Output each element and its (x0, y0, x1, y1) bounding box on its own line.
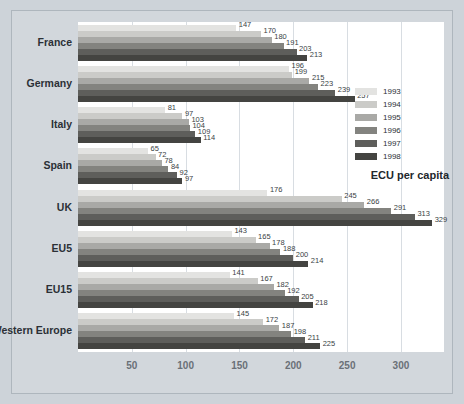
bar-value-label: 187 (282, 323, 295, 329)
x-axis-ticks: 50100150200250300 (78, 354, 444, 378)
bar (78, 96, 355, 102)
bar-group: 147170180191203213 (78, 22, 444, 63)
legend-label: 1997 (383, 139, 401, 148)
bar-value-label: 218 (315, 300, 328, 306)
bar-value-label: 81 (168, 105, 176, 111)
bar-value-label: 245 (344, 193, 357, 199)
bar-value-label: 198 (294, 329, 307, 335)
bar-value-label: 223 (321, 81, 334, 87)
category-label: Spain (43, 159, 72, 171)
x-tick-label: 200 (285, 360, 302, 371)
legend-item: 1998 (355, 151, 451, 162)
legend-label: 1994 (383, 100, 401, 109)
legend-swatch (355, 101, 377, 108)
category-label: Western Europe (0, 324, 72, 336)
bar-value-label: 211 (308, 335, 320, 341)
category-label: EU15 (46, 283, 72, 295)
bar-group: 143165178188200214 (78, 228, 444, 269)
legend-title: ECU per capita (355, 169, 451, 181)
bar (78, 302, 313, 308)
bar-value-label: 176 (270, 187, 283, 193)
legend-swatch (355, 114, 377, 121)
bar-value-label: 225 (323, 341, 336, 347)
bar-value-label: 291 (394, 205, 407, 211)
x-tick-label: 50 (126, 360, 137, 371)
category-label: Germany (26, 77, 72, 89)
bar (78, 55, 307, 61)
chart-legend: 199319941995199619971998 ECU per capita (355, 86, 451, 181)
bar-value-label: 167 (260, 276, 273, 282)
legend-item: 1994 (355, 99, 451, 110)
chart-figure: 1471701801912032131961992152232392578197… (0, 0, 464, 404)
bar-value-label: 180 (274, 34, 287, 40)
bar-group: 176245266291313329 (78, 187, 444, 228)
bar-value-label: 97 (185, 176, 193, 182)
x-tick-label: 150 (231, 360, 248, 371)
legend-label: 1998 (383, 152, 401, 161)
bar-value-label: 266 (367, 199, 380, 205)
bar-value-label: 143 (234, 228, 247, 234)
bar (78, 220, 432, 226)
bar-value-label: 199 (295, 69, 308, 75)
legend-item: 1997 (355, 138, 451, 149)
x-tick-label: 300 (393, 360, 410, 371)
legend-item: 1993 (355, 86, 451, 97)
bar-value-label: 313 (417, 211, 430, 217)
bar-value-label: 239 (338, 87, 351, 93)
bar-value-label: 114 (203, 135, 215, 141)
legend-swatch (355, 88, 377, 95)
bar-value-label: 147 (239, 22, 252, 28)
bar-value-label: 200 (296, 252, 309, 258)
legend-swatch (355, 127, 377, 134)
bar-value-label: 172 (266, 317, 279, 323)
bar (78, 261, 308, 267)
legend-item: 1995 (355, 112, 451, 123)
bar-value-label: 145 (237, 311, 250, 317)
category-label: France (38, 36, 72, 48)
bar (78, 178, 182, 184)
bar-value-label: 191 (286, 40, 299, 46)
x-tick-label: 100 (177, 360, 194, 371)
category-label: EU5 (52, 242, 72, 254)
bar-value-label: 192 (287, 288, 300, 294)
bar (78, 137, 201, 143)
legend-label: 1995 (383, 113, 401, 122)
bar-value-label: 141 (232, 270, 245, 276)
bar (78, 343, 320, 349)
legend-items: 199319941995199619971998 (355, 86, 451, 162)
bar-value-label: 213 (310, 52, 323, 58)
bar-value-label: 214 (311, 258, 324, 264)
legend-item: 1996 (355, 125, 451, 136)
bar-value-label: 165 (258, 234, 271, 240)
category-label: UK (57, 201, 72, 213)
plot-area: 1471701801912032131961992152232392578197… (78, 22, 444, 352)
category-label: Italy (51, 118, 72, 130)
bar-value-label: 205 (301, 294, 314, 300)
category-axis-labels: FranceGermanyItalySpainUKEU5EU15Western … (0, 22, 72, 352)
bar-group: 141167182192205218 (78, 270, 444, 311)
legend-swatch (355, 140, 377, 147)
legend-label: 1993 (383, 87, 401, 96)
bar-group: 145172187198211225 (78, 311, 444, 352)
bar-value-label: 329 (435, 217, 448, 223)
x-tick-label: 250 (339, 360, 356, 371)
legend-label: 1996 (383, 126, 401, 135)
legend-swatch (355, 153, 377, 160)
bar-value-label: 84 (171, 164, 179, 170)
bar-value-label: 188 (283, 246, 296, 252)
